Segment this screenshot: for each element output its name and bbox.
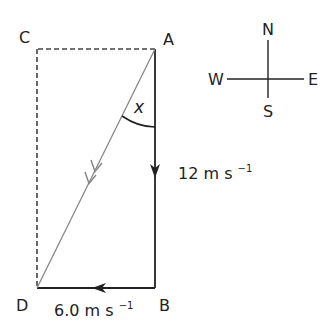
west-magnitude: 6.0 <box>54 301 79 320</box>
south-unit: m s <box>203 164 232 183</box>
label-south-speed: 12 m s −1 <box>178 163 252 183</box>
compass-east: E <box>308 70 318 89</box>
label-west-speed: 6.0 m s −1 <box>54 300 133 320</box>
west-exponent: −1 <box>119 300 134 311</box>
west-unit: m s <box>85 301 114 320</box>
compass-north: N <box>262 20 274 39</box>
point-label-b: B <box>159 296 170 315</box>
vector-diagram: x A C D B 12 m s −1 6.0 m s −1 N S W E <box>0 0 326 336</box>
vector-resultant <box>37 49 155 288</box>
compass-south: S <box>263 102 273 121</box>
angle-arc <box>122 116 155 127</box>
point-label-a: A <box>163 30 174 49</box>
double-arrowhead-icon <box>85 160 102 184</box>
point-label-c: C <box>19 28 30 47</box>
compass: N S W E <box>208 20 318 121</box>
point-label-d: D <box>16 296 28 315</box>
south-magnitude: 12 <box>178 164 198 183</box>
south-exponent: −1 <box>238 163 253 174</box>
compass-west: W <box>208 70 224 89</box>
angle-label: x <box>133 97 145 117</box>
